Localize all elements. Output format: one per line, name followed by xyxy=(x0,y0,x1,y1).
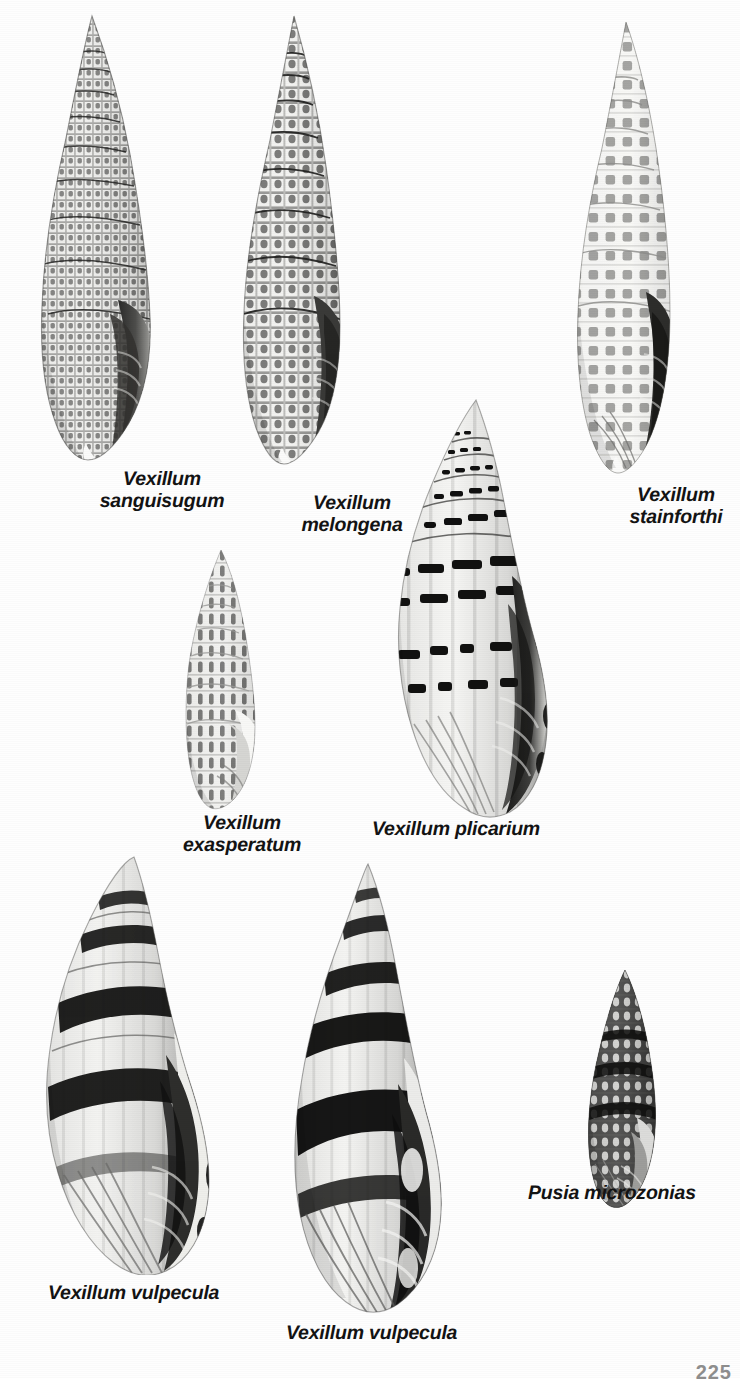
specimen-vexillum-sanguisugum xyxy=(14,14,189,462)
caption-vexillum-plicarium: Vexillum plicarium xyxy=(372,818,602,840)
caption-vexillum-exasperatum: Vexillum exasperatum xyxy=(142,812,342,856)
caption-vexillum-vulpecula-right: Vexillum vulpecula xyxy=(286,1322,516,1344)
specimen-vexillum-vulpecula-right xyxy=(262,862,480,1314)
caption-vexillum-stainforthi: Vexillum stainforthi xyxy=(576,484,740,528)
caption-vexillum-vulpecula-left: Vexillum vulpecula xyxy=(48,1282,278,1304)
specimen-pusia-microzonias xyxy=(567,968,677,1208)
specimen-vexillum-melongena xyxy=(218,14,378,466)
page-number: 225 xyxy=(696,1361,732,1383)
caption-vexillum-sanguisugum: Vexillum sanguisugum xyxy=(62,468,262,512)
specimen-vexillum-plicarium xyxy=(368,398,580,818)
specimen-vexillum-vulpecula-left xyxy=(6,855,246,1275)
specimen-vexillum-exasperatum xyxy=(163,548,283,810)
caption-pusia-microzonias: Pusia microzonias xyxy=(528,1182,740,1204)
